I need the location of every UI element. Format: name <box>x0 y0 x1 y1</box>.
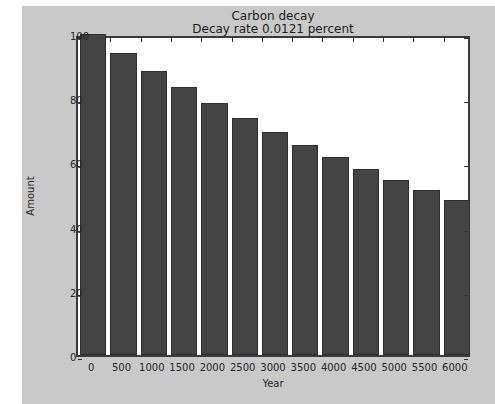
x-tick-bottom <box>262 351 263 355</box>
y-tick-right <box>464 359 468 360</box>
bar <box>201 103 227 355</box>
bar <box>262 132 288 355</box>
x-tick-top <box>383 38 384 42</box>
x-tick-label: 0 <box>88 362 94 373</box>
figure-canvas: Carbon decay Decay rate 0.0121 percent A… <box>22 6 495 404</box>
bar <box>353 169 379 355</box>
x-tick-label: 5000 <box>381 362 406 373</box>
x-tick-top <box>141 38 142 42</box>
x-tick-label: 1000 <box>139 362 164 373</box>
bar <box>413 190 439 355</box>
bar <box>292 145 318 355</box>
x-tick-bottom <box>141 351 142 355</box>
y-tick-label: 40 <box>70 223 83 234</box>
x-tick-label: 2500 <box>230 362 255 373</box>
x-tick-bottom <box>110 351 111 355</box>
x-tick-bottom <box>201 351 202 355</box>
y-tick-right <box>464 231 468 232</box>
x-tick-label: 2000 <box>200 362 225 373</box>
bar <box>110 53 136 355</box>
bars-container <box>78 38 468 355</box>
y-tick-left <box>78 359 82 360</box>
x-tick-bottom <box>383 351 384 355</box>
bar <box>80 34 106 355</box>
x-tick-bottom <box>80 351 81 355</box>
bar <box>444 200 470 355</box>
x-tick-label: 6000 <box>442 362 467 373</box>
x-tick-top <box>292 38 293 42</box>
y-tick-label: 0 <box>70 352 76 363</box>
x-tick-bottom <box>322 351 323 355</box>
plot-area <box>76 36 470 357</box>
x-tick-bottom <box>232 351 233 355</box>
x-tick-bottom <box>171 351 172 355</box>
x-tick-label: 3500 <box>291 362 316 373</box>
chart-subtitle: Decay rate 0.0121 percent <box>76 23 470 36</box>
chart-title-line1: Carbon decay <box>231 9 314 23</box>
x-tick-top <box>444 38 445 42</box>
x-tick-label: 1500 <box>169 362 194 373</box>
x-tick-bottom <box>292 351 293 355</box>
y-tick-right <box>464 38 468 39</box>
x-tick-top <box>232 38 233 42</box>
bar <box>232 118 258 355</box>
x-tick-label: 5500 <box>412 362 437 373</box>
y-tick-right <box>464 166 468 167</box>
x-tick-bottom <box>353 351 354 355</box>
x-axis-label: Year <box>76 378 470 389</box>
x-tick-top <box>353 38 354 42</box>
y-tick-right <box>464 102 468 103</box>
x-tick-top <box>413 38 414 42</box>
x-tick-top <box>262 38 263 42</box>
bar <box>141 71 167 355</box>
x-tick-label: 3000 <box>260 362 285 373</box>
x-tick-top <box>322 38 323 42</box>
x-tick-bottom <box>413 351 414 355</box>
x-tick-top <box>110 38 111 42</box>
y-axis-label: Amount <box>25 176 36 215</box>
bar <box>322 157 348 355</box>
x-tick-top <box>201 38 202 42</box>
y-tick-label: 20 <box>70 287 83 298</box>
x-tick-label: 4000 <box>321 362 346 373</box>
x-tick-label: 500 <box>112 362 131 373</box>
x-tick-label: 4500 <box>351 362 376 373</box>
y-tick-label: 80 <box>70 95 83 106</box>
bar <box>171 87 197 355</box>
x-tick-top <box>171 38 172 42</box>
y-tick-right <box>464 295 468 296</box>
x-tick-bottom <box>444 351 445 355</box>
chart-title: Carbon decay Decay rate 0.0121 percent <box>76 10 470 36</box>
bar <box>383 180 409 355</box>
y-tick-label: 100 <box>70 31 89 42</box>
y-tick-label: 60 <box>70 159 83 170</box>
